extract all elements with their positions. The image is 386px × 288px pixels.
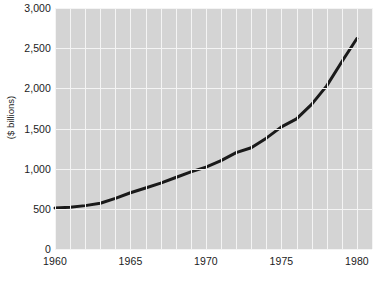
y-axis-tick-label: 1,500 xyxy=(3,124,51,134)
y-axis-tick-label: 500 xyxy=(3,204,51,214)
x-axis-tick-label: 1980 xyxy=(345,255,369,267)
gridline-horizontal xyxy=(55,88,372,89)
y-axis-tick-label: 2,500 xyxy=(3,43,51,53)
x-axis-tick-label: 1960 xyxy=(43,255,67,267)
gridline-horizontal xyxy=(55,209,372,210)
y-axis-tick-labels: 05001,0001,5002,0002,5003,000 xyxy=(0,8,51,249)
x-axis-tick-label: 1975 xyxy=(270,255,294,267)
y-axis-tick-label: 2,000 xyxy=(3,83,51,93)
y-axis-tick-label: 3,000 xyxy=(3,3,51,13)
plot-area xyxy=(55,8,372,249)
x-axis-tick-label: 1965 xyxy=(119,255,143,267)
gridline-horizontal xyxy=(55,249,372,250)
gridline-horizontal xyxy=(55,8,372,9)
gridline-vertical xyxy=(372,8,373,249)
gridline-horizontal xyxy=(55,48,372,49)
y-axis-tick-label: 0 xyxy=(3,244,51,254)
y-axis-tick-label: 1,000 xyxy=(3,164,51,174)
x-axis-tick-labels: 19601965197019751980 xyxy=(55,255,372,271)
gridline-horizontal xyxy=(55,169,372,170)
line-chart-figure: ($ billions) 05001,0001,5002,0002,5003,0… xyxy=(0,0,386,288)
x-axis-tick-label: 1970 xyxy=(194,255,218,267)
gridline-horizontal xyxy=(55,129,372,130)
